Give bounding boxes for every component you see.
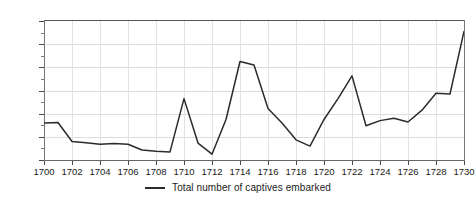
legend-line-swatch: [145, 187, 165, 189]
x-tick-mark: [240, 161, 241, 165]
x-tick-mark: [72, 161, 73, 165]
x-tick-mark: [100, 161, 101, 165]
x-tick-label: 1714: [225, 166, 255, 177]
x-tick-mark: [212, 161, 213, 165]
x-tick-mark: [408, 161, 409, 165]
x-tick-mark: [268, 161, 269, 165]
x-tick-mark: [436, 161, 437, 165]
x-tick-label: 1704: [85, 166, 115, 177]
x-tick-label: 1718: [281, 166, 311, 177]
x-tick-label: 1700: [29, 166, 59, 177]
plot-border-right: [464, 20, 465, 161]
x-tick-label: 1722: [337, 166, 367, 177]
x-tick-mark: [156, 161, 157, 165]
x-tick-label: 1716: [253, 166, 283, 177]
x-tick-mark: [464, 161, 465, 165]
x-tick-mark: [128, 161, 129, 165]
x-tick-label: 1726: [393, 166, 423, 177]
line-chart-figure: 01,0002,0003,0004,0005,0006,000 17001702…: [0, 0, 476, 202]
x-tick-label: 1706: [113, 166, 143, 177]
x-tick-label: 1724: [365, 166, 395, 177]
series-total-captives-embarked: [44, 21, 464, 160]
x-tick-label: 1728: [421, 166, 451, 177]
x-tick-mark: [352, 161, 353, 165]
chart-legend: Total number of captives embarked: [0, 182, 476, 193]
x-tick-label: 1712: [197, 166, 227, 177]
x-tick-label: 1720: [309, 166, 339, 177]
x-tick-mark: [296, 161, 297, 165]
x-tick-mark: [184, 161, 185, 165]
x-tick-label: 1710: [169, 166, 199, 177]
legend-label: Total number of captives embarked: [172, 182, 331, 193]
x-tick-mark: [324, 161, 325, 165]
x-tick-label: 1702: [57, 166, 87, 177]
x-tick-mark: [44, 161, 45, 165]
x-tick-label: 1708: [141, 166, 171, 177]
x-tick-mark: [380, 161, 381, 165]
x-tick-label: 1730: [449, 166, 476, 177]
plot-border-bottom: [44, 160, 465, 161]
